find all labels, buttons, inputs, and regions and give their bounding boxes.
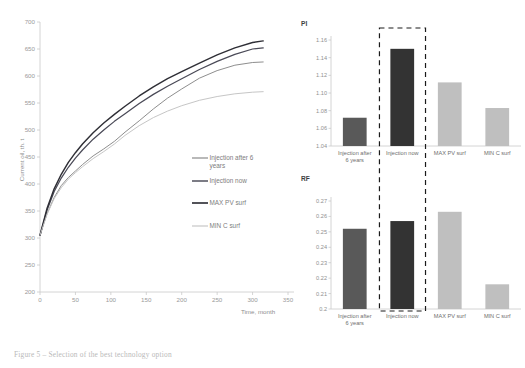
bar-y-tick: 1.06 (316, 125, 327, 131)
bar-min-c-surf (485, 108, 509, 146)
bar-category-label: MAX PV surf (434, 150, 466, 156)
line-chart-x-tick: 150 (141, 296, 152, 303)
bar-category-label: Injection now (386, 313, 420, 319)
line-chart-x-tick: 50 (72, 296, 79, 303)
pi-bar-chart-svg: PI 1.041.061.081.101.121.141.16 Injectio… (295, 14, 525, 179)
bar-category-label: Injection after (338, 150, 372, 156)
bar-category-label: MIN C surf (484, 313, 511, 319)
line-chart-x-tick: 100 (106, 296, 117, 303)
line-chart-y-tick: 500 (25, 126, 36, 133)
bar-y-tick: 0.25 (316, 229, 327, 235)
bar-category-label: Injection after (338, 313, 372, 319)
bar-injection-now (390, 221, 414, 309)
legend-item-min-c-surf: MIN C surf (192, 222, 240, 229)
bar-y-tick: 1.16 (316, 37, 327, 43)
rf-chart-title: RF (301, 175, 310, 182)
line-chart-legend: Injection after 6yearsInjection nowMAX P… (192, 154, 254, 229)
bar-category-label: Injection now (386, 150, 420, 156)
legend-label: MIN C surf (210, 222, 241, 229)
legend-label: Injection after 6 (210, 154, 254, 162)
bar-charts-panel: PI 1.041.061.081.101.121.141.16 Injectio… (295, 14, 525, 344)
bar-category-label: 6 years (346, 157, 365, 163)
rf-bar-chart-svg: RF 0.20.210.220.230.240.250.260.27 Injec… (295, 169, 525, 344)
bar-y-tick: 0.26 (316, 213, 327, 219)
bar-category-label: MIN C surf (484, 150, 511, 156)
line-chart-y-tick: 450 (25, 153, 36, 160)
pi-chart-bars (343, 49, 509, 146)
bar-injection-after-6-years (343, 229, 367, 309)
line-chart-y-tick: 550 (25, 99, 36, 106)
legend-label: Injection now (210, 177, 248, 185)
bar-y-tick: 0.2 (319, 306, 327, 312)
bar-y-tick: 0.24 (316, 244, 327, 250)
bar-max-pv-surf (438, 82, 462, 146)
bar-y-tick: 1.08 (316, 108, 327, 114)
line-chart-y-tick: 300 (25, 234, 36, 241)
bar-max-pv-surf (438, 212, 462, 309)
figure-caption: Figure 5 – Selection of the best technol… (14, 350, 314, 359)
line-chart-y-tick: 600 (25, 72, 36, 79)
pi-chart-category-labels: Injection after6 yearsInjection nowMAX P… (338, 150, 511, 163)
bar-y-tick: 1.10 (316, 90, 327, 96)
line-chart-y-tick: 400 (25, 180, 36, 187)
bar-injection-after-6-years (343, 118, 367, 146)
line-chart-y-tick: 350 (25, 207, 36, 214)
line-chart-x-tick: 250 (212, 296, 223, 303)
bar-y-tick: 1.14 (316, 55, 327, 61)
line-series-min-c-surf (40, 92, 263, 236)
line-chart-y-tick: 200 (25, 288, 36, 295)
line-chart-panel: 200250300350400450500550600650700 050100… (0, 0, 300, 340)
bar-y-tick: 0.21 (316, 291, 327, 297)
rf-chart-bars (343, 212, 509, 309)
bar-y-tick: 0.22 (316, 275, 327, 281)
rf-chart-category-labels: Injection after6 yearsInjection nowMAX P… (338, 313, 511, 326)
bar-min-c-surf (485, 284, 509, 309)
legend-label: MAX PV surf (210, 199, 247, 206)
bar-category-label: MAX PV surf (434, 313, 466, 319)
rf-chart-y-tick-labels: 0.20.210.220.230.240.250.260.27 (316, 198, 331, 312)
pi-chart-y-tick-labels: 1.041.061.081.101.121.141.16 (316, 37, 331, 149)
pi-chart-title: PI (301, 20, 307, 27)
line-chart-series-group (40, 41, 263, 235)
bar-y-tick: 1.12 (316, 72, 327, 78)
line-chart-x-tick: 200 (177, 296, 188, 303)
legend-item-injection-now: Injection now (192, 177, 247, 185)
line-chart-x-axis-title: Time, month (241, 308, 276, 315)
line-chart-y-tick: 250 (25, 261, 36, 268)
line-chart-x-tick: 350 (283, 296, 294, 303)
bar-category-label: 6 years (346, 320, 365, 326)
line-chart-x-tick: 300 (247, 296, 258, 303)
bar-y-tick: 0.23 (316, 260, 327, 266)
line-chart-x-tick: 0 (38, 296, 42, 303)
figure-container: 200250300350400450500550600650700 050100… (0, 0, 525, 368)
legend-label: years (210, 162, 226, 170)
line-chart-svg: 200250300350400450500550600650700 050100… (0, 0, 300, 340)
legend-item-injection-after-6-years: Injection after 6years (192, 154, 254, 170)
line-chart-y-tick: 700 (25, 18, 36, 25)
line-series-injection-now (40, 48, 263, 235)
line-chart-x-tick-labels: 050100150200250300350 (38, 292, 293, 303)
legend-item-max-pv-surf: MAX PV surf (192, 199, 246, 206)
bar-injection-now (390, 49, 414, 146)
bar-y-tick: 1.04 (316, 143, 327, 149)
bar-y-tick: 0.27 (316, 198, 327, 204)
line-chart-y-tick: 650 (25, 45, 36, 52)
line-chart-y-axis-title: Current oil, th. t (18, 139, 25, 182)
line-series-max-pv-surf (40, 41, 263, 235)
line-chart-y-tick-labels: 200250300350400450500550600650700 (25, 18, 40, 295)
